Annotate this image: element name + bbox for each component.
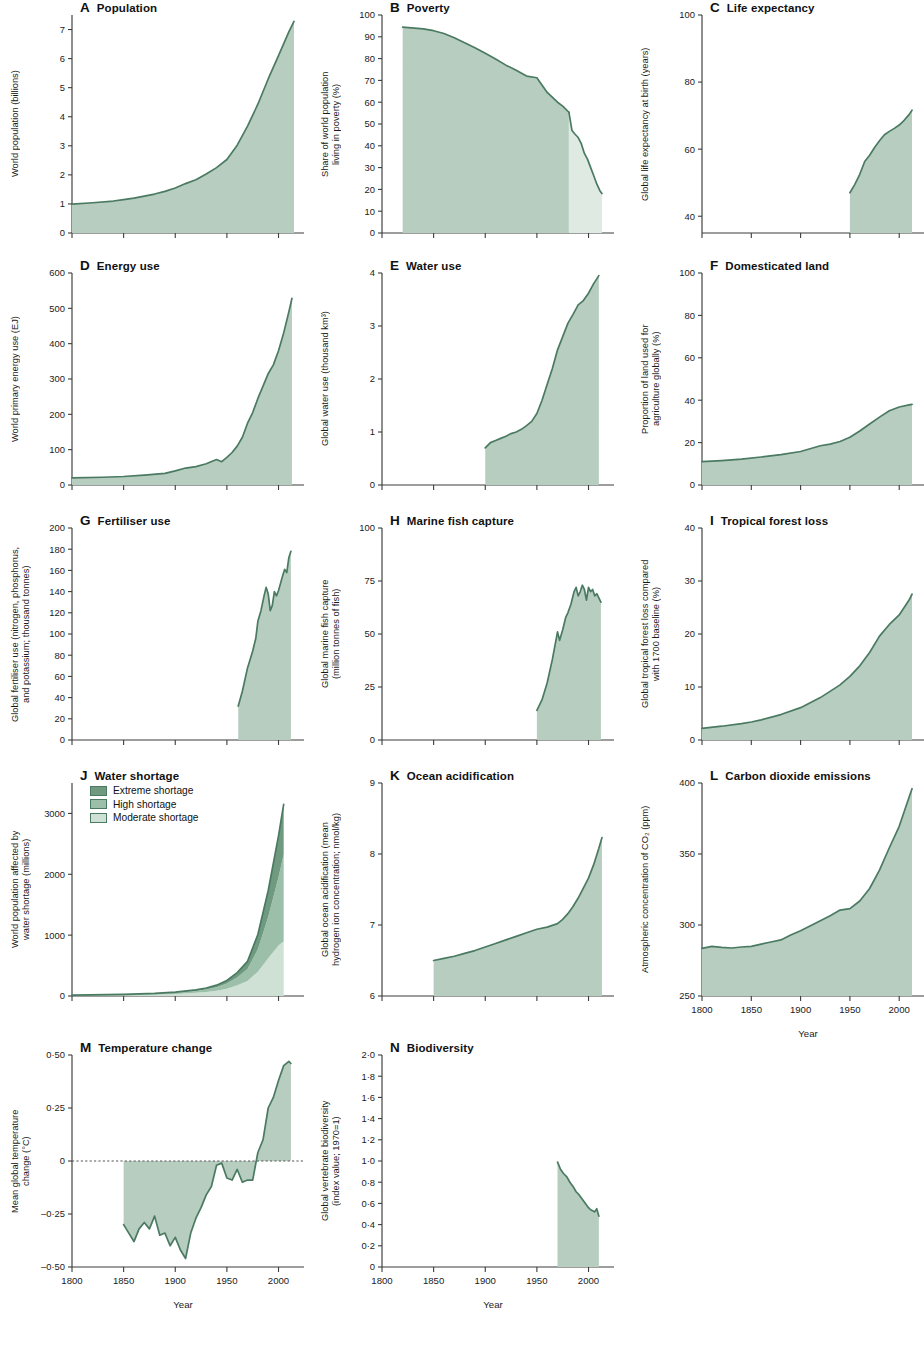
panel-f: FDomesticated landProportion of land use… bbox=[620, 258, 924, 515]
legend-swatch bbox=[90, 786, 107, 796]
y-tick-label: 40 bbox=[365, 140, 375, 151]
y-axis-label: Global water use (thousand km³) bbox=[320, 273, 360, 485]
y-tick-label: 0 bbox=[60, 479, 65, 490]
y-tick-label: 1 bbox=[370, 426, 375, 437]
panel-header-i: ITropical forest loss bbox=[710, 513, 924, 528]
panel-title: Domesticated land bbox=[725, 260, 829, 272]
plot-area-i: Global tropical forest loss compared wit… bbox=[620, 528, 924, 770]
panel-header-c: CLife expectancy bbox=[710, 0, 924, 15]
y-tick-label: 50 bbox=[365, 628, 375, 639]
y-tick-label: 6 bbox=[60, 53, 65, 64]
y-tick-label: 75 bbox=[365, 575, 375, 586]
y-tick-label: 160 bbox=[49, 565, 65, 576]
y-tick-label: 500 bbox=[49, 303, 65, 314]
y-tick-label: 400 bbox=[679, 777, 695, 788]
legend-item: High shortage bbox=[90, 799, 199, 810]
legend: Extreme shortageHigh shortageModerate sh… bbox=[90, 785, 199, 826]
y-tick-label: 20 bbox=[685, 437, 695, 448]
series-area bbox=[72, 298, 292, 485]
panel-header-e: EWater use bbox=[390, 258, 616, 273]
plot-area-b: Share of world population living in pove… bbox=[310, 15, 616, 263]
y-tick-label: 2 bbox=[370, 373, 375, 384]
series-area-historic bbox=[403, 27, 569, 233]
y-tick-label: 0 bbox=[60, 990, 65, 1001]
y-tick-label: 180 bbox=[49, 544, 65, 555]
y-tick-label: 1 bbox=[60, 198, 65, 209]
y-tick-label: 5 bbox=[60, 82, 65, 93]
y-tick-label: 1·8 bbox=[361, 1071, 375, 1082]
y-tick-label: 40 bbox=[685, 522, 695, 533]
panel-title: Poverty bbox=[407, 2, 450, 14]
y-tick-label: 0 bbox=[60, 1155, 65, 1166]
series-area bbox=[558, 1162, 599, 1267]
panel-title: Ocean acidification bbox=[407, 770, 514, 782]
y-tick-label: 10 bbox=[685, 681, 695, 692]
panel-title: Biodiversity bbox=[407, 1042, 474, 1054]
y-tick-label: 30 bbox=[365, 162, 375, 173]
plot-area-h: Global marine fish capture (million tonn… bbox=[310, 528, 616, 770]
plot-area-g: Global fertiliser use (nitrogen, phospho… bbox=[0, 528, 306, 770]
legend-label: Moderate shortage bbox=[113, 812, 199, 823]
y-tick-label: 1·2 bbox=[361, 1134, 375, 1145]
y-tick-label: 20 bbox=[685, 628, 695, 639]
figure-panel-grid: APopulationWorld population (billions)01… bbox=[0, 0, 924, 1346]
x-tick-label: 2000 bbox=[889, 1004, 910, 1015]
y-tick-label: 7 bbox=[370, 919, 375, 930]
y-tick-label: 0 bbox=[60, 227, 65, 238]
y-tick-label: 20 bbox=[55, 713, 65, 724]
panel-title: Fertiliser use bbox=[98, 515, 171, 527]
panel-letter: E bbox=[390, 258, 399, 273]
series-area bbox=[850, 110, 912, 233]
y-tick-label: 300 bbox=[49, 373, 65, 384]
plot-area-d: World primary energy use (EJ)01002003004… bbox=[0, 273, 306, 515]
y-tick-label: 60 bbox=[55, 671, 65, 682]
legend-label: Extreme shortage bbox=[113, 785, 193, 796]
y-tick-label: 100 bbox=[359, 9, 375, 20]
panel-d: DEnergy useWorld primary energy use (EJ)… bbox=[0, 258, 306, 515]
series-area bbox=[702, 594, 912, 740]
panel-header-f: FDomesticated land bbox=[710, 258, 924, 273]
panel-header-g: GFertiliser use bbox=[80, 513, 306, 528]
y-tick-label: 40 bbox=[55, 692, 65, 703]
panel-letter: K bbox=[390, 768, 400, 783]
y-tick-label: 70 bbox=[365, 75, 375, 86]
panel-c: CLife expectancyGlobal life expectancy a… bbox=[620, 0, 924, 263]
series-area-high-shortage bbox=[72, 854, 284, 995]
x-tick-label: 2000 bbox=[268, 1275, 289, 1286]
y-tick-label: 100 bbox=[679, 9, 695, 20]
panel-k: KOcean acidificationGlobal ocean acidifi… bbox=[310, 768, 616, 1026]
y-axis-label: Global tropical forest loss compared wit… bbox=[640, 528, 680, 740]
legend-label: High shortage bbox=[113, 799, 176, 810]
panel-letter: I bbox=[710, 513, 714, 528]
panel-header-l: LCarbon dioxide emissions bbox=[710, 768, 924, 783]
y-tick-label: 0·6 bbox=[361, 1198, 375, 1209]
legend-swatch bbox=[90, 813, 107, 823]
panel-header-a: APopulation bbox=[80, 0, 306, 15]
panel-header-d: DEnergy use bbox=[80, 258, 306, 273]
y-tick-label: 60 bbox=[365, 97, 375, 108]
panel-title: Temperature change bbox=[98, 1042, 212, 1054]
panel-header-j: JWater shortage bbox=[80, 768, 306, 783]
y-axis-label: Global marine fish capture (million tonn… bbox=[320, 528, 360, 740]
y-tick-label: 0 bbox=[370, 227, 375, 238]
panel-j: JWater shortageWorld population affected… bbox=[0, 768, 306, 1026]
series-area bbox=[238, 551, 291, 740]
y-tick-label: 200 bbox=[49, 409, 65, 420]
y-tick-label: 0 bbox=[690, 479, 695, 490]
y-tick-label: 6 bbox=[370, 990, 375, 1001]
y-tick-label: 100 bbox=[49, 628, 65, 639]
panel-header-b: BPoverty bbox=[390, 0, 616, 15]
y-axis-label: Share of world population living in pove… bbox=[320, 15, 360, 233]
x-tick-label: 1950 bbox=[839, 1004, 860, 1015]
y-tick-label: 0 bbox=[370, 1261, 375, 1272]
y-tick-label: 9 bbox=[370, 777, 375, 788]
panel-letter: F bbox=[710, 258, 718, 273]
panel-header-h: HMarine fish capture bbox=[390, 513, 616, 528]
panel-header-m: MTemperature change bbox=[80, 1040, 306, 1055]
panel-header-n: NBiodiversity bbox=[390, 1040, 616, 1055]
y-tick-label: 1·6 bbox=[361, 1092, 375, 1103]
x-tick-label: 1850 bbox=[423, 1275, 444, 1286]
y-tick-label: 10 bbox=[365, 206, 375, 217]
panel-letter: H bbox=[390, 513, 400, 528]
x-tick-label: 1900 bbox=[165, 1275, 186, 1286]
